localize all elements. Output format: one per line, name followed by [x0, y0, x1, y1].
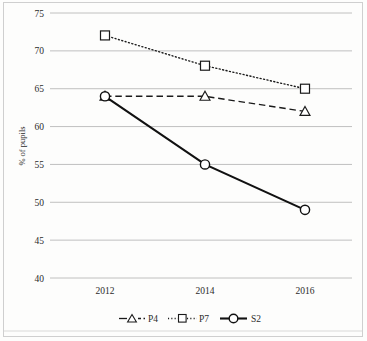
y-tick-45: 45 [35, 236, 45, 246]
line-chart-figure: 75 70 65 60 55 50 45 40 % of pupils 2012… [0, 0, 367, 341]
series-s2-line [105, 96, 305, 210]
y-tick-55: 55 [35, 160, 45, 170]
y-tick-65: 65 [35, 84, 45, 94]
chart-legend: P4 P7 S2 [119, 314, 261, 324]
legend-item-s2[interactable]: S2 [220, 314, 261, 324]
series-p7 [101, 31, 310, 93]
legend-p4-label: P4 [148, 314, 158, 324]
y-tick-70: 70 [35, 46, 45, 56]
y-tick-50: 50 [35, 198, 45, 208]
x-tick-2012: 2012 [96, 286, 115, 296]
gridlines [50, 13, 352, 278]
legend-p4-triangle-marker [128, 315, 137, 323]
series-s2-marker-2016 [300, 205, 309, 214]
y-tick-75: 75 [35, 9, 45, 19]
y-axis-tick-labels: 75 70 65 60 55 50 45 40 [35, 9, 45, 284]
series-p7-marker-2012 [101, 31, 110, 40]
legend-s2-label: S2 [251, 314, 261, 324]
y-tick-40: 40 [35, 274, 45, 284]
chart-plot-area: 75 70 65 60 55 50 45 40 % of pupils 2012… [0, 0, 367, 341]
series-s2-marker-2012 [100, 92, 109, 101]
series-s2 [100, 92, 309, 215]
series-p4 [100, 91, 310, 115]
legend-p7-label: P7 [199, 314, 209, 324]
x-tick-2016: 2016 [296, 286, 315, 296]
legend-item-p4[interactable]: P4 [119, 314, 158, 324]
series-p7-marker-2016 [301, 84, 310, 93]
legend-item-p7[interactable]: P7 [168, 314, 209, 324]
legend-p7-square-marker [179, 315, 187, 323]
legend-s2-circle-marker [229, 314, 238, 323]
series-s2-marker-2014 [200, 160, 209, 169]
y-axis-title: % of pupils [17, 126, 27, 165]
y-tick-60: 60 [35, 122, 45, 132]
x-axis-tick-labels: 2012 2014 2016 [96, 286, 315, 296]
x-tick-2014: 2014 [196, 286, 215, 296]
series-p7-marker-2014 [201, 61, 210, 70]
